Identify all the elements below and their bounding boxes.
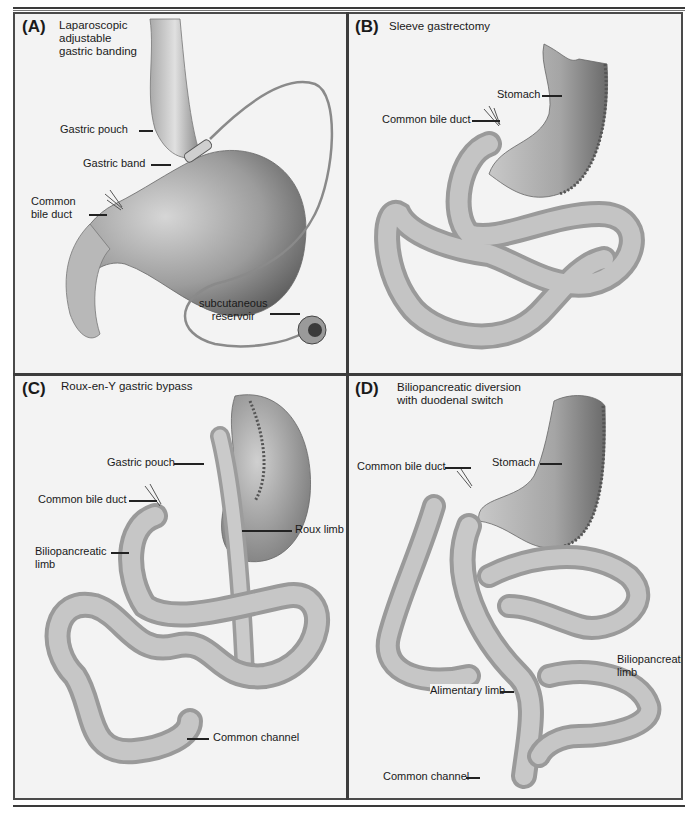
label-common-bile-duct: Common bile duct	[31, 195, 76, 221]
panel-title: Laparoscopic adjustable gastric banding	[59, 19, 137, 58]
leader-line	[129, 500, 157, 502]
label-stomach: Stomach	[492, 456, 535, 469]
label-gastric-pouch: Gastric pouch	[60, 123, 128, 136]
panel-letter: (D)	[355, 379, 379, 399]
leader-line	[174, 463, 204, 465]
leader-line	[472, 120, 500, 122]
leader-line	[270, 313, 300, 315]
panel-letter: (C)	[22, 379, 46, 399]
leader-line	[500, 691, 514, 693]
leader-line	[540, 463, 562, 465]
panel-d: (D) Biliopancreatic diversion with duode…	[349, 376, 681, 798]
label-common-bile-duct: Common bile duct	[382, 113, 471, 126]
panel-letter: (A)	[22, 17, 46, 37]
leader-line	[242, 530, 292, 532]
biliopancreatic-diversion-illustration	[349, 376, 681, 798]
panel-title-line: Biliopancreatic diversion	[397, 381, 521, 394]
leader-line	[187, 738, 209, 740]
top-rule	[13, 7, 685, 9]
sleeve-gastrectomy-illustration	[349, 14, 681, 373]
panel-title-line: gastric banding	[59, 45, 137, 58]
label-roux-limb: Roux limb	[295, 523, 344, 536]
panel-c: (C) Roux-en-Y gastric bypass Gastric pou…	[15, 376, 346, 798]
leader-line	[89, 214, 107, 216]
leader-line	[111, 552, 129, 554]
panel-title: Biliopancreatic diversion with duodenal …	[397, 381, 521, 407]
panel-divider-vertical	[346, 12, 349, 800]
label-common-channel: Common channel	[213, 731, 299, 744]
leader-line	[542, 95, 562, 97]
leader-line	[139, 130, 153, 132]
top-rule-inner	[13, 10, 685, 11]
leader-line	[151, 164, 171, 166]
panel-divider-horizontal	[13, 373, 683, 376]
label-subcutaneous-reservoir: subcutaneous reservoir	[199, 297, 268, 323]
label-biliopancreatic-limb: Biliopancreatic limb	[617, 653, 681, 679]
panel-title: Sleeve gastrectomy	[389, 20, 490, 33]
bottom-rule	[13, 805, 685, 807]
label-gastric-pouch: Gastric pouch	[107, 456, 175, 469]
label-common-bile-duct: Common bile duct	[38, 493, 127, 506]
label-common-bile-duct: Common bile duct	[357, 460, 446, 473]
label-gastric-band: Gastric band	[83, 157, 145, 170]
leader-line	[466, 777, 480, 779]
panel-title-line: adjustable	[59, 32, 137, 45]
panel-letter: (B)	[355, 17, 379, 37]
gastric-banding-illustration	[15, 14, 346, 373]
panel-title: Roux-en-Y gastric bypass	[61, 380, 192, 393]
leader-line	[445, 467, 471, 469]
label-stomach: Stomach	[497, 88, 540, 101]
label-common-channel: Common channel	[383, 770, 469, 783]
panel-title-line: Laparoscopic	[59, 19, 137, 32]
panel-a: (A) Laparoscopic adjustable gastric band…	[15, 14, 346, 373]
panel-title-line: with duodenal switch	[397, 394, 521, 407]
label-alimentary-limb: Alimentary limb	[430, 684, 505, 697]
panel-b: (B) Sleeve gastrectomy Stomach Common bi…	[349, 14, 681, 373]
label-biliopancreatic-limb: Biliopancreatic limb	[35, 545, 107, 571]
